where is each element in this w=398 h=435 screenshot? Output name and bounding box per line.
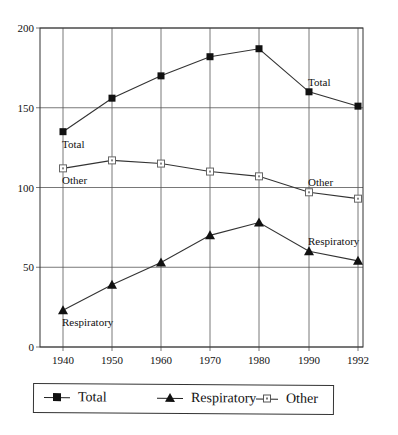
- series-annotations: TotalTotalOtherOtherRespiratoryRespirato…: [62, 76, 360, 329]
- filled-triangle-marker-icon: [165, 392, 175, 401]
- filled-square-marker-icon: [256, 45, 263, 52]
- filled-triangle-marker-icon: [156, 257, 166, 266]
- series-annotation-label: Other: [62, 174, 87, 186]
- series-annotation-label: Total: [62, 138, 84, 150]
- legend-label: Respiratory: [191, 390, 256, 406]
- y-tick-label: 0: [29, 341, 35, 353]
- legend-line-respiratory: [157, 397, 183, 398]
- filled-square-marker-icon: [306, 88, 313, 95]
- legend-label: Total: [78, 389, 107, 405]
- y-tick-label: 200: [18, 22, 35, 34]
- open-square-marker-dot: [62, 167, 64, 169]
- legend: Total Respiratory Other: [33, 383, 334, 415]
- legend-item-other: Other: [256, 391, 318, 407]
- filled-triangle-marker-icon: [254, 218, 264, 227]
- y-tick-label: 50: [23, 261, 35, 273]
- filled-square-marker-icon: [109, 95, 116, 102]
- open-square-marker-dot: [258, 175, 260, 177]
- series-annotation-label: Respiratory: [62, 316, 114, 328]
- filled-square-marker-icon: [355, 103, 362, 110]
- filled-triangle-marker-icon: [304, 246, 314, 255]
- legend-line-total: [44, 397, 70, 398]
- y-tick-label: 150: [18, 102, 35, 114]
- legend-line-other: [256, 398, 278, 399]
- series-line-total: [63, 49, 358, 132]
- filled-square-marker-icon: [158, 72, 165, 79]
- x-tick-label: 1992: [347, 354, 369, 366]
- line-chart: 050100150200 194019501960197019801990199…: [0, 0, 398, 380]
- y-axis-ticks: 050100150200: [18, 22, 35, 353]
- x-tick-label: 1940: [52, 354, 75, 366]
- legend-item-total: Total: [44, 389, 107, 405]
- series-annotation-label: Respiratory: [308, 235, 360, 247]
- series-annotation-label: Other: [308, 176, 333, 188]
- filled-square-marker-icon: [53, 393, 61, 401]
- open-square-marker-dot: [209, 171, 211, 173]
- filled-square-marker-icon: [207, 53, 214, 60]
- filled-triangle-marker-icon: [107, 280, 117, 289]
- x-tick-label: 1990: [298, 354, 321, 366]
- x-tick-label: 1980: [248, 354, 271, 366]
- filled-square-marker-icon: [60, 128, 67, 135]
- legend-label: Other: [286, 391, 318, 407]
- open-square-marker-icon: [263, 394, 271, 402]
- open-square-marker-dot: [111, 159, 113, 161]
- x-tick-label: 1970: [199, 354, 222, 366]
- open-square-marker-dot: [160, 163, 162, 165]
- open-square-marker-dot: [357, 198, 359, 200]
- series-annotation-label: Total: [308, 76, 330, 88]
- open-square-marker-dot: [308, 191, 310, 193]
- y-tick-label: 100: [18, 182, 35, 194]
- legend-item-respiratory: Respiratory: [157, 390, 256, 407]
- x-tick-label: 1950: [101, 354, 124, 366]
- filled-triangle-marker-icon: [58, 305, 68, 314]
- x-axis-ticks: 1940195019601970198019901992: [52, 354, 369, 366]
- x-tick-label: 1960: [150, 354, 173, 366]
